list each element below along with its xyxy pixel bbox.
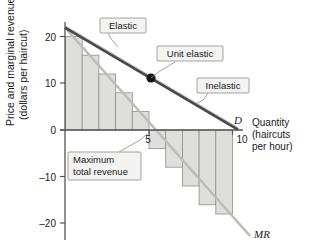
marginal-revenue-curve-label: MR <box>253 228 270 240</box>
callout-max-total-revenue-line1: Maximum <box>73 154 114 165</box>
callout-inelastic-label: Inelastic <box>206 80 241 91</box>
callout-inelastic: Inelastic <box>196 78 249 104</box>
x-axis-title: Quantity (haircuts per hour) <box>252 117 293 152</box>
x-axis-title-line1: Quantity <box>252 117 289 128</box>
callout-unit-elastic-label: Unit elastic <box>167 48 214 59</box>
bar-q1-2 <box>82 55 99 130</box>
demand-curve-label: D <box>233 114 242 126</box>
callout-elastic: Elastic <box>100 18 146 47</box>
y-tick-label-0: 0 <box>50 125 56 136</box>
callout-elastic-label: Elastic <box>109 20 137 31</box>
x-tick-label-5: 5 <box>145 134 151 145</box>
y-axis-ticks <box>60 37 65 224</box>
callout-unit-elastic: Unit elastic <box>151 46 223 78</box>
y-axis-title: Price and marginal revenue (dollars per … <box>4 0 29 126</box>
x-axis-title-line2: (haircuts <box>252 129 290 140</box>
y-tick-label-minus-10: –10 <box>39 172 56 183</box>
callout-max-total-revenue: Maximum total revenue <box>68 134 147 180</box>
y-tick-label-20: 20 <box>45 32 57 43</box>
callout-max-total-revenue-line2: total revenue <box>73 166 128 177</box>
y-tick-label-minus-20: –20 <box>39 218 56 229</box>
y-axis-title-line1: Price and marginal revenue <box>4 0 16 126</box>
chart-figure: 20 10 0 –10 –20 5 10 Price and marginal … <box>0 0 314 247</box>
y-tick-label-10: 10 <box>45 78 57 89</box>
y-axis-title-line2: (dollars per haircut) <box>17 30 29 120</box>
x-axis-title-line3: per hour) <box>252 141 293 152</box>
bar-q0-1 <box>66 37 83 131</box>
bar-q3-4 <box>116 93 133 130</box>
x-tick-label-10: 10 <box>236 134 248 145</box>
price-marginal-revenue-chart: 20 10 0 –10 –20 5 10 Price and marginal … <box>0 0 314 247</box>
